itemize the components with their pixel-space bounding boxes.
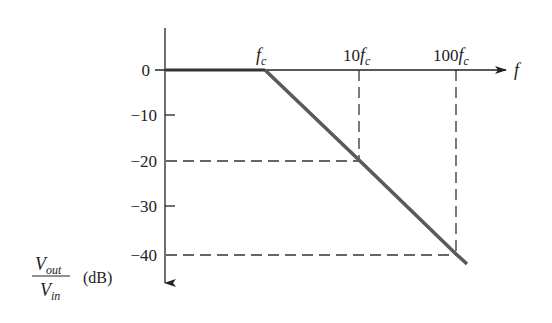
magnitude-curve-rolloff bbox=[265, 70, 467, 264]
y-tick-label-minus10: −10 bbox=[130, 106, 157, 125]
x-axis-label: f bbox=[514, 60, 522, 80]
y-label-numerator: Vout bbox=[35, 254, 62, 277]
y-tick-label-minus30: −30 bbox=[130, 197, 157, 216]
y-axis-label: Vout Vin (dB) bbox=[32, 254, 112, 303]
bode-plot: 0 −10 −20 −30 −40 fc 10fc 100fc f Vout V… bbox=[0, 0, 552, 323]
y-tick-label-minus40: −40 bbox=[130, 246, 157, 265]
y-tick-label-0: 0 bbox=[142, 61, 151, 80]
y-label-denominator: Vin bbox=[40, 280, 60, 303]
x-tick-label-fc: fc bbox=[256, 45, 267, 68]
x-tick-label-10fc: 10fc bbox=[343, 45, 371, 68]
reference-lines bbox=[166, 70, 456, 255]
y-tick-label-minus20: −20 bbox=[130, 152, 157, 171]
x-tick-label-100fc: 100fc bbox=[433, 45, 470, 68]
y-label-unit: (dB) bbox=[83, 269, 112, 287]
